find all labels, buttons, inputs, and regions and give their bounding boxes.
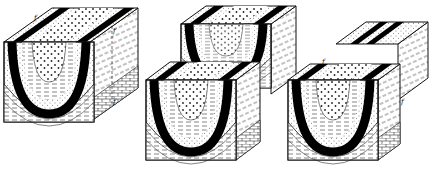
figure: f f f f f	[0, 0, 433, 173]
block-vertical-offset	[146, 6, 296, 164]
block-unfaulted: f f f	[4, 8, 138, 126]
block-horizontal-offset: f f	[288, 22, 428, 164]
fault-label: f	[400, 98, 405, 106]
